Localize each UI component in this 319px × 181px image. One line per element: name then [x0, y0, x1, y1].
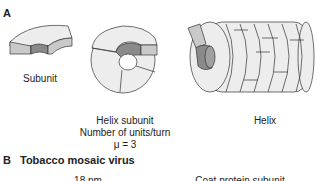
subunit-shape — [10, 25, 72, 54]
helix-subunit-caption-line1: Helix subunit — [70, 115, 180, 127]
panel-a-label: A — [3, 7, 11, 19]
panel-b-title: Tobacco mosaic virus — [20, 154, 135, 166]
helix-shape — [188, 22, 314, 92]
subunit-caption: Subunit — [10, 73, 70, 85]
helix-caption: Helix — [240, 115, 290, 127]
helix-subunit-shape — [91, 26, 157, 93]
panel-b-label: B — [3, 154, 11, 166]
helix-subunit-caption: Helix subunit Number of units/turn μ = 3 — [70, 115, 180, 151]
helix-subunit-caption-line3: μ = 3 — [70, 139, 180, 151]
partial-label-18nm: 18 nm — [68, 175, 108, 181]
partial-label-coat-protein: Coat protein subunit — [185, 175, 295, 181]
helix-subunit-caption-line2: Number of units/turn — [70, 127, 180, 139]
